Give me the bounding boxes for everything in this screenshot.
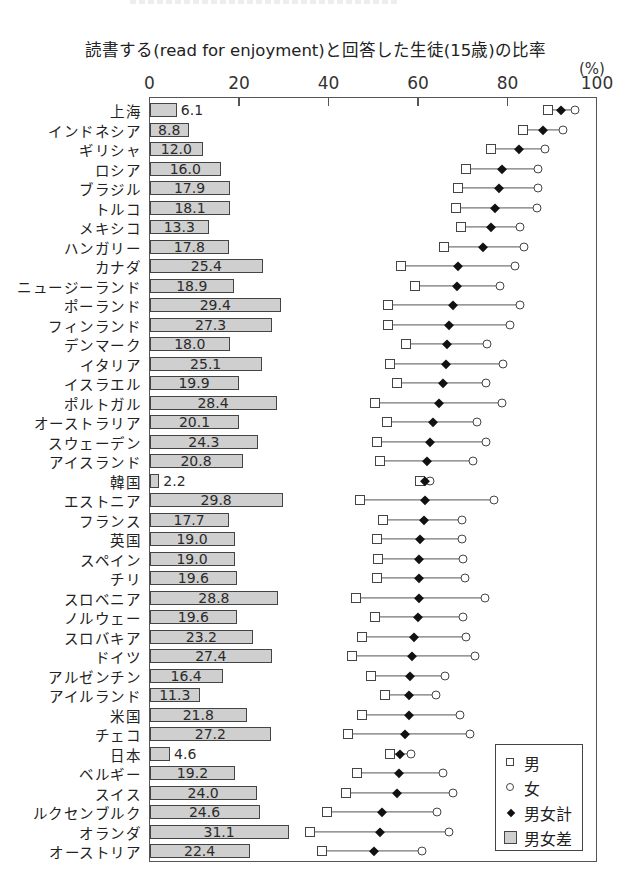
- x-tick-label: 100: [581, 73, 613, 93]
- category-label: オーストラリア: [34, 412, 142, 433]
- male-marker: [392, 378, 402, 388]
- male-marker: [486, 144, 496, 154]
- gap-value: 6.1: [181, 102, 203, 118]
- category-label: アイスランド: [49, 451, 141, 472]
- category-label: オランダ: [79, 821, 141, 842]
- gap-value: 19.0: [176, 531, 207, 547]
- male-marker: [322, 807, 332, 817]
- gap-value: 24.0: [188, 785, 219, 801]
- female-marker: [406, 749, 415, 758]
- male-marker: [543, 105, 553, 115]
- category-label: トルコ: [95, 197, 142, 218]
- male-marker: [461, 164, 471, 174]
- category-label: ポルトガル: [64, 392, 142, 413]
- category-label: チリ: [110, 568, 141, 589]
- gap-value: 13.3: [164, 219, 195, 235]
- gap-value: 27.2: [195, 726, 226, 742]
- gap-value: 18.9: [176, 278, 207, 294]
- category-label: インドネシア: [48, 119, 141, 140]
- female-marker: [482, 340, 491, 349]
- legend-item-gap: 男女差: [504, 826, 572, 850]
- gap-value: 24.6: [189, 804, 220, 820]
- male-marker: [518, 125, 528, 135]
- female-marker: [458, 535, 467, 544]
- x-tick-label: 60: [407, 73, 429, 93]
- gap-bar: [150, 103, 177, 117]
- female-marker: [469, 457, 478, 466]
- female-marker: [533, 203, 542, 212]
- male-marker: [453, 183, 463, 193]
- female-marker: [516, 223, 525, 232]
- gap-value: 28.8: [198, 590, 229, 606]
- male-marker: [380, 690, 390, 700]
- male-marker: [396, 261, 406, 271]
- female-marker: [511, 262, 520, 271]
- category-label: 日本: [110, 743, 141, 764]
- open-square-icon: [504, 756, 518, 770]
- category-label: チェコ: [95, 724, 142, 745]
- x-tick-label: 80: [497, 73, 519, 93]
- female-marker: [540, 145, 549, 154]
- female-marker: [482, 437, 491, 446]
- gap-value: 19.6: [178, 570, 209, 586]
- category-label: ルクセンブルク: [33, 802, 142, 823]
- gap-bar: [150, 474, 160, 488]
- male-marker: [385, 749, 395, 759]
- female-marker: [448, 788, 457, 797]
- gap-value: 19.0: [176, 551, 207, 567]
- category-label: スロベニア: [64, 587, 142, 608]
- male-marker: [355, 495, 365, 505]
- female-marker: [461, 632, 470, 641]
- male-marker: [317, 846, 327, 856]
- category-label: ニュージーランド: [17, 275, 141, 296]
- female-marker: [445, 827, 454, 836]
- category-label: フランス: [79, 509, 141, 530]
- female-marker: [439, 769, 448, 778]
- category-label: ベルギー: [79, 763, 141, 784]
- gap-value: 19.2: [177, 765, 208, 781]
- category-label: スロバキア: [64, 626, 142, 647]
- female-marker: [533, 164, 542, 173]
- female-marker: [431, 691, 440, 700]
- female-marker: [418, 847, 427, 856]
- male-marker: [366, 671, 376, 681]
- gap-value: 27.4: [195, 648, 226, 664]
- male-marker: [341, 788, 351, 798]
- female-marker: [571, 106, 580, 115]
- gray-bar-icon: [504, 831, 518, 845]
- female-marker: [458, 515, 467, 524]
- category-label: イスラエル: [64, 373, 142, 394]
- gap-value: 20.8: [180, 453, 211, 469]
- category-label: ポーランド: [64, 295, 142, 316]
- category-label: デンマーク: [64, 334, 142, 355]
- gap-value: 29.4: [200, 297, 231, 313]
- gap-value: 29.8: [201, 492, 232, 508]
- legend-item-total: 男女計: [504, 801, 572, 825]
- male-marker: [439, 242, 449, 252]
- female-marker: [495, 281, 504, 290]
- female-marker: [515, 301, 524, 310]
- male-marker: [372, 437, 382, 447]
- gap-value: 28.4: [197, 395, 228, 411]
- male-marker: [357, 632, 367, 642]
- gap-bar: [150, 747, 171, 761]
- male-marker: [357, 710, 367, 720]
- gap-value: 11.3: [159, 687, 190, 703]
- female-marker: [506, 320, 515, 329]
- female-marker: [481, 593, 490, 602]
- gap-value: 12.0: [161, 141, 192, 157]
- female-marker: [473, 418, 482, 427]
- category-label: フィンランド: [48, 314, 141, 335]
- gap-value: 25.4: [191, 258, 222, 274]
- category-label: ギリシャ: [79, 139, 141, 160]
- category-label: スペイン: [80, 548, 141, 569]
- gap-value: 17.9: [174, 180, 205, 196]
- male-marker: [372, 573, 382, 583]
- category-label: ノルウェー: [64, 607, 142, 628]
- male-marker: [370, 398, 380, 408]
- category-label: 上海: [110, 100, 141, 121]
- category-label: エストニア: [64, 490, 142, 511]
- category-label: メキシコ: [79, 217, 141, 238]
- female-marker: [534, 184, 543, 193]
- category-label: オーストリア: [49, 841, 141, 862]
